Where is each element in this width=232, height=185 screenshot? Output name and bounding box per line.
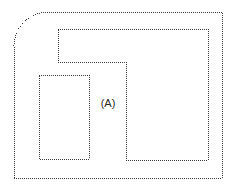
region-a-label: (A): [101, 97, 116, 109]
left-rectangle-path: [39, 75, 89, 159]
plan-svg: (A): [0, 0, 232, 185]
outer-boundary-path: [14, 12, 222, 178]
inner-l-shape-path: [58, 29, 208, 160]
floor-plan-figure: (A): [0, 0, 232, 185]
